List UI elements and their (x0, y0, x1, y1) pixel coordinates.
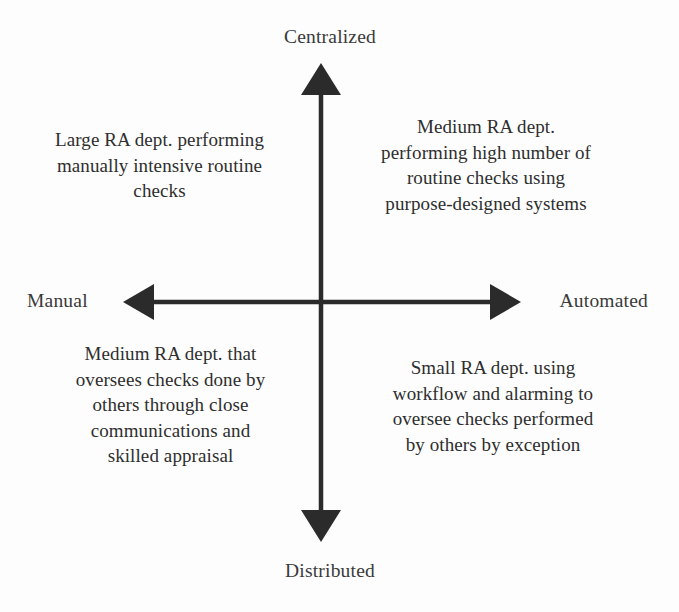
text-line: Large RA dept. performing (18, 127, 301, 153)
axis-label-manual: Manual (27, 290, 88, 312)
quadrant-text-top-right: Medium RA dept.performing high number of… (352, 114, 620, 216)
text-line: manually intensive routine (18, 153, 301, 179)
text-line: by others by exception (364, 432, 622, 458)
quadrant-diagram-canvas: Centralized Distributed Manual Automated… (0, 0, 679, 612)
axis-label-automated: Automated (560, 290, 648, 312)
text-line: skilled appraisal (42, 443, 299, 469)
arrowhead-right-icon (490, 284, 521, 320)
arrowhead-up-icon (301, 63, 341, 95)
quadrant-text-bottom-right: Small RA dept. usingworkflow and alarmin… (364, 355, 622, 457)
text-line: Medium RA dept. that (42, 341, 299, 367)
text-line: routine checks using (352, 165, 620, 191)
quadrant-text-bottom-left: Medium RA dept. thatoversees checks done… (42, 341, 299, 469)
text-line: workflow and alarming to (364, 381, 622, 407)
text-line: oversees checks done by (42, 367, 299, 393)
text-line: communications and (42, 418, 299, 444)
axis-label-distributed: Distributed (0, 560, 660, 582)
text-line: Small RA dept. using (364, 355, 622, 381)
text-line: Medium RA dept. (352, 114, 620, 140)
quadrant-text-top-left: Large RA dept. performingmanually intens… (18, 127, 301, 204)
arrowhead-down-icon (301, 510, 341, 542)
text-line: checks (18, 178, 301, 204)
text-line: purpose-designed systems (352, 191, 620, 217)
text-line: others through close (42, 392, 299, 418)
text-line: oversee checks performed (364, 406, 622, 432)
arrowhead-left-icon (123, 284, 154, 320)
text-line: performing high number of (352, 140, 620, 166)
axis-label-centralized: Centralized (0, 26, 660, 48)
